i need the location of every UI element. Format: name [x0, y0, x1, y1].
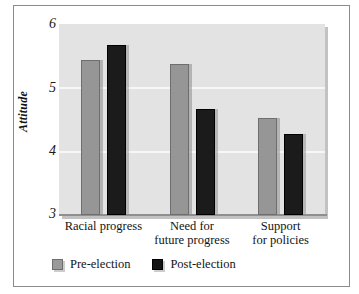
figure-container: 6 5 4 3 Attitude Racial progressNeed for…	[0, 0, 359, 294]
y-tick-5: 5	[34, 81, 56, 95]
legend-item-pre-election[interactable]: Pre-election	[52, 258, 130, 271]
post-election-swatch	[152, 259, 163, 270]
legend-item-post-election[interactable]: Post-election	[152, 258, 235, 271]
x-axis-label-line: Need for	[148, 219, 237, 233]
bar-pre-election-2	[170, 64, 189, 215]
bar-post-election-3	[284, 134, 303, 215]
pre-election-swatch	[52, 259, 63, 270]
bar-chart: 6 5 4 3 Attitude Racial progressNeed for…	[0, 0, 359, 294]
bar-pre-election-3	[258, 118, 277, 215]
x-axis-category-labels: Racial progressNeed forfuture progressSu…	[59, 219, 325, 261]
legend-label: Pre-election	[70, 258, 130, 271]
x-axis-label-line: Racial progress	[59, 219, 148, 233]
y-axis-title: Attitude	[16, 77, 31, 147]
x-axis-label-3: Supportfor policies	[236, 219, 325, 247]
bars-layer	[59, 24, 325, 215]
bar-pre-election-1	[81, 60, 100, 215]
chart-legend: Pre-electionPost-election	[52, 258, 236, 271]
x-axis-label-line: for policies	[236, 233, 325, 247]
y-tick-4: 4	[34, 144, 56, 158]
y-tick-6: 6	[34, 17, 56, 31]
y-axis: 6 5 4 3	[28, 0, 56, 294]
legend-label: Post-election	[170, 258, 235, 271]
x-axis-label-1: Racial progress	[59, 219, 148, 233]
x-axis-label-line: Support	[236, 219, 325, 233]
bar-post-election-2	[196, 109, 215, 215]
bar-post-election-1	[107, 45, 126, 215]
x-axis-label-line: future progress	[148, 233, 237, 247]
x-axis-label-2: Need forfuture progress	[148, 219, 237, 247]
y-tick-3: 3	[34, 207, 56, 221]
